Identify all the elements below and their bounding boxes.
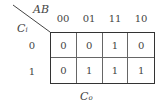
column-header-00: 00 bbox=[50, 14, 76, 24]
kmap-cell: 1 bbox=[77, 58, 103, 83]
column-header-11: 11 bbox=[102, 14, 128, 24]
kmap-cell: 0 bbox=[77, 33, 103, 58]
column-header-01: 01 bbox=[76, 14, 102, 24]
kmap-cell: 1 bbox=[103, 58, 129, 83]
output-label: Co bbox=[80, 91, 93, 102]
column-header-10: 10 bbox=[128, 14, 154, 24]
column-variable-label: AB bbox=[33, 4, 49, 15]
kmap-cell: 0 bbox=[51, 58, 77, 83]
kmap-cell: 0 bbox=[51, 33, 77, 58]
row-header-0: 0 bbox=[22, 41, 42, 51]
row-header-1: 1 bbox=[22, 67, 42, 77]
kmap-grid: 0 0 1 0 0 1 1 1 bbox=[50, 32, 155, 84]
kmap-cell: 0 bbox=[128, 33, 154, 58]
kmap-cell: 1 bbox=[103, 33, 129, 58]
kmap-cell: 1 bbox=[128, 58, 154, 83]
row-variable-label: Ci bbox=[17, 23, 28, 34]
